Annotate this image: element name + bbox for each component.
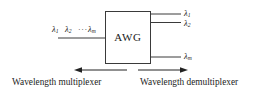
lambda-subscript: 1 (56, 28, 59, 34)
output-lambda-label-m: λm (184, 52, 192, 62)
input-lambda-label-1: λ1 (52, 25, 58, 35)
input-lambda-label-m: λm (88, 25, 96, 35)
multiplexer-arrow (74, 67, 127, 73)
demultiplexer-caption: Wavelength demultiplexer (140, 78, 238, 87)
lambda-subscript: 1 (188, 12, 191, 18)
input-lambda-ellipsis: ··· (78, 26, 88, 34)
demultiplexer-arrow (138, 67, 188, 73)
lambda-subscript: m (188, 55, 192, 61)
output-lambda-label-2: λ2 (184, 19, 190, 29)
input-lambda-label-2: λ2 (65, 25, 71, 35)
awg-box-label: AWG (110, 32, 146, 43)
lambda-subscript: 2 (69, 28, 72, 34)
lambda-subscript: m (92, 28, 96, 34)
lambda-subscript: 2 (188, 22, 191, 28)
multiplexer-caption: Wavelength multiplexer (12, 78, 101, 87)
awg-diagram: AWG λ1 λ2 ··· λm λ1 λ2 λm Wavelength mul… (0, 0, 262, 95)
